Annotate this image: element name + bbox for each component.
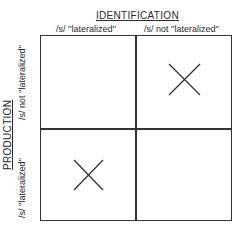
- horizontal-divider: [41, 128, 231, 130]
- column-header-1: /s/ ''lateralized'': [56, 24, 116, 34]
- column-axis-title: IDENTIFICATION: [96, 10, 179, 21]
- row-axis-title: PRODUCTION: [2, 100, 13, 170]
- x-cross-icon: [73, 159, 104, 191]
- x-cross-icon: [168, 63, 201, 96]
- matrix-grid: [40, 35, 232, 221]
- row-header-1: /s/ not ''lateralized'': [17, 45, 27, 120]
- row-header-2: /s/ ''lateralized'': [17, 158, 27, 218]
- column-header-2: /s/ not ''lateralized'': [144, 24, 219, 34]
